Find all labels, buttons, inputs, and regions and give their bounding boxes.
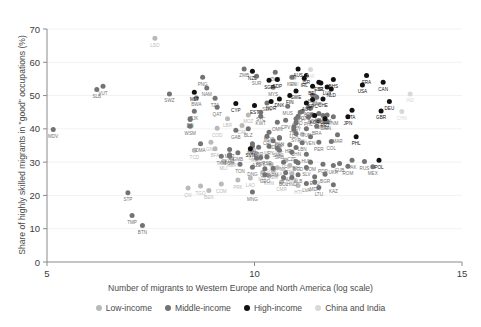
y-tick-label-40: 40 bbox=[29, 123, 40, 134]
data-point-label: MDV bbox=[48, 134, 59, 139]
data-point bbox=[281, 175, 286, 180]
data-point bbox=[387, 99, 392, 104]
data-point-label: NAM bbox=[202, 92, 212, 97]
legend-item-middle-income[interactable]: Middle-income bbox=[165, 303, 231, 313]
data-point bbox=[335, 132, 340, 137]
data-point bbox=[381, 80, 386, 85]
data-point-label: TON bbox=[235, 169, 245, 174]
data-point-label: DMA bbox=[195, 148, 206, 153]
data-point-label: SYR bbox=[291, 138, 301, 143]
data-point bbox=[242, 66, 247, 71]
data-point-label: TCD bbox=[190, 155, 200, 160]
data-point bbox=[304, 100, 309, 105]
legend-item-china-india[interactable]: China and India bbox=[315, 303, 385, 313]
data-point-label: SUR bbox=[252, 81, 262, 86]
legend-label-china-india: China and India bbox=[325, 303, 385, 313]
data-point bbox=[350, 158, 355, 163]
scatter-chart: 01020304050607051015LSOMWIMOZLBRCAFCODGI… bbox=[0, 0, 481, 327]
data-point-label: AUT bbox=[302, 107, 311, 112]
data-point bbox=[329, 139, 334, 144]
data-point bbox=[399, 109, 404, 114]
data-point bbox=[283, 118, 288, 123]
data-point bbox=[192, 90, 197, 95]
x-axis-label: Number of migrants to Western Europe and… bbox=[0, 283, 481, 293]
data-point bbox=[320, 162, 325, 167]
data-point-label: SRB bbox=[275, 155, 284, 160]
y-tick-label-0: 0 bbox=[35, 257, 40, 268]
data-point bbox=[235, 150, 240, 155]
legend-item-high-income[interactable]: High-income bbox=[244, 303, 302, 313]
y-tick-label-60: 60 bbox=[29, 57, 40, 68]
data-point bbox=[364, 73, 369, 78]
data-point bbox=[140, 223, 145, 228]
data-point-label: SWZ bbox=[164, 98, 174, 103]
data-point bbox=[192, 109, 197, 114]
data-point bbox=[250, 69, 255, 74]
data-point-label: ARM bbox=[268, 173, 278, 178]
data-point-label: BEN bbox=[204, 195, 213, 200]
data-point bbox=[235, 178, 240, 183]
data-point bbox=[310, 97, 315, 102]
data-point-label: KOR bbox=[310, 120, 321, 125]
data-point-label: SVN bbox=[246, 153, 255, 158]
data-point-label: CIV bbox=[184, 193, 193, 198]
data-point bbox=[287, 93, 292, 98]
data-point bbox=[188, 117, 193, 122]
data-point bbox=[277, 96, 282, 101]
data-point-label: SDP bbox=[273, 84, 282, 89]
data-point bbox=[233, 101, 238, 106]
x-tick-label-10: 10 bbox=[249, 268, 260, 279]
legend-item-low-income[interactable]: Low-income bbox=[96, 303, 152, 313]
legend-swatch-low-income bbox=[96, 305, 102, 311]
data-point bbox=[316, 185, 321, 190]
data-point bbox=[331, 77, 336, 82]
data-point-label: QAT bbox=[213, 112, 222, 117]
data-point-label: MUS bbox=[283, 111, 293, 116]
data-point bbox=[233, 128, 238, 133]
data-point-label: USA bbox=[358, 89, 368, 94]
data-point bbox=[316, 80, 321, 85]
data-point bbox=[51, 127, 56, 132]
x-tick-label-15: 15 bbox=[457, 268, 468, 279]
data-point bbox=[379, 108, 384, 113]
data-point bbox=[337, 161, 342, 166]
data-point-label: KEN bbox=[287, 82, 296, 87]
data-point bbox=[213, 146, 218, 151]
data-point bbox=[198, 184, 203, 189]
data-point bbox=[206, 188, 211, 193]
data-point-label: IND bbox=[406, 98, 415, 103]
data-point-label: KAZ bbox=[329, 189, 338, 194]
data-point bbox=[225, 116, 230, 121]
data-point-label: EST bbox=[250, 110, 259, 115]
data-point bbox=[316, 140, 321, 145]
data-point-label: BWA bbox=[191, 102, 202, 107]
x-tick-label-5: 5 bbox=[44, 268, 49, 279]
data-point bbox=[267, 130, 272, 135]
data-point bbox=[219, 154, 224, 159]
data-point-label: FIN bbox=[286, 100, 293, 105]
data-point bbox=[125, 190, 130, 195]
data-point bbox=[294, 131, 299, 136]
data-point-label: CUB bbox=[335, 168, 345, 173]
legend-label-low-income: Low-income bbox=[106, 303, 152, 313]
data-point bbox=[198, 141, 203, 146]
data-point bbox=[248, 146, 253, 151]
data-point bbox=[287, 142, 292, 147]
data-point-label: NZL bbox=[248, 76, 257, 81]
data-point bbox=[283, 170, 288, 175]
data-point-label: UZB bbox=[260, 173, 269, 178]
data-point-label: BRA bbox=[312, 131, 322, 136]
data-point bbox=[350, 108, 355, 113]
data-point bbox=[186, 186, 191, 191]
data-point-label: CAN bbox=[378, 87, 388, 92]
data-point-label: BOL bbox=[279, 182, 289, 187]
data-point-label: SLV bbox=[302, 172, 311, 177]
data-point bbox=[227, 147, 232, 152]
data-point bbox=[304, 152, 309, 157]
data-point bbox=[273, 70, 278, 75]
data-point-label: BLZ bbox=[244, 133, 253, 138]
legend-swatch-china-india bbox=[315, 305, 321, 311]
data-point-label: ZAF bbox=[306, 74, 315, 79]
data-point-label: BEL bbox=[308, 91, 317, 96]
data-point bbox=[360, 82, 365, 87]
